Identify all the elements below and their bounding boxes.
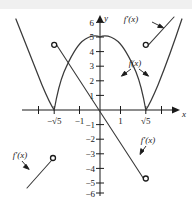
f-prime-right-branch	[149, 17, 175, 45]
x-label-neg-1: −1	[75, 116, 85, 126]
pointer-arrow-f-prime-upper-right	[158, 24, 164, 28]
x-label-neg-sqrt5: −√5	[47, 116, 62, 126]
y-axis-arrowhead	[97, 15, 104, 22]
open-point-pos-sqrt5-up	[143, 42, 148, 47]
y-label-5: 5	[90, 32, 95, 42]
y-label-2: 2	[90, 76, 95, 86]
f-left-branch	[16, 19, 54, 110]
x-axis-arrowhead	[172, 107, 180, 114]
figure-root: −√5 −1 1 √5 6 5 4 3 2 1 −1 −2 −3 −4 −5 −…	[0, 0, 192, 199]
y-label-neg-5: −5	[85, 178, 95, 188]
x-label-1: 1	[118, 116, 123, 126]
y-label-neg-6: −6	[85, 189, 95, 199]
f-right-branch	[146, 19, 182, 110]
label-f-prime-lower-left: f′(x)	[13, 150, 27, 160]
y-axis-label: y	[103, 13, 108, 23]
y-label-neg-2: −2	[85, 134, 95, 144]
pointer-arrow-f-prime-lower-left	[23, 164, 29, 169]
y-label-1: 1	[90, 91, 95, 101]
plot-canvas: −√5 −1 1 √5 6 5 4 3 2 1 −1 −2 −3 −4 −5 −…	[0, 0, 192, 199]
y-label-neg-4: −4	[85, 164, 95, 174]
y-label-6: 6	[90, 18, 95, 28]
pointer-arrow-f-left	[121, 71, 127, 76]
f-prime-left-branch	[27, 161, 52, 189]
y-label-3: 3	[90, 61, 95, 71]
label-f-prime-lower-right: f′(x)	[141, 135, 155, 145]
y-label-neg-3: −3	[85, 149, 95, 159]
open-point-neg-sqrt5-down	[51, 156, 56, 161]
y-label-neg-1: −1	[85, 120, 95, 130]
x-axis-label: x	[181, 109, 186, 119]
y-label-4: 4	[90, 47, 95, 57]
y-tick-labels: 6 5 4 3 2 1 −1 −2 −3 −4 −5 −6	[85, 18, 95, 199]
label-f-prime-upper-right: f′(x)	[124, 14, 138, 24]
curve-f-of-x	[16, 19, 182, 110]
label-f-of-x: f(x)	[129, 58, 142, 68]
pointer-arrow-f-right	[143, 71, 149, 76]
open-point-pos-sqrt5-down	[143, 176, 148, 181]
x-label-sqrt5: √5	[141, 116, 151, 126]
open-point-neg-sqrt5-up	[52, 42, 57, 47]
